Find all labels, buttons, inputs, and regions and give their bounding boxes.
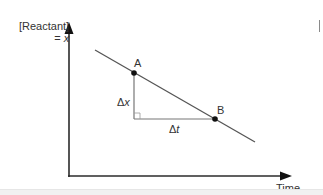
point-b-label: B — [217, 104, 224, 116]
y-axis-label: [Reactant] = x — [19, 20, 69, 44]
x-axis-arrow-icon — [280, 172, 292, 181]
right-angle-marker — [134, 113, 140, 119]
y-axis-label-line1: [Reactant] — [19, 20, 69, 32]
bottom-border — [0, 189, 323, 195]
point-b-marker — [212, 116, 218, 122]
delta-t-label: Δt — [169, 123, 179, 135]
delta-x-label: Δx — [117, 96, 130, 108]
point-a-marker — [131, 70, 137, 76]
point-a-label: A — [134, 57, 141, 69]
edge-mark — [319, 20, 320, 32]
y-axis-label-line2: = x — [19, 32, 69, 44]
